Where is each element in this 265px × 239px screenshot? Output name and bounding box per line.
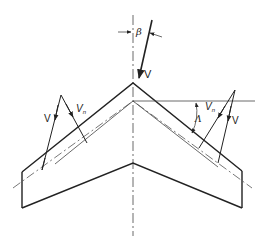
left-velocity-arrowhead xyxy=(55,105,58,120)
left-velocity-drop xyxy=(42,158,45,170)
leading-edge xyxy=(22,83,242,172)
right-normal-line xyxy=(199,90,235,148)
left-normal-line xyxy=(61,95,87,143)
right-normal-velocity-label: Vn xyxy=(205,101,216,113)
left-normal-velocity-label: Vn xyxy=(76,103,87,115)
right-normal-arrowhead xyxy=(218,106,225,118)
beta-arrow-right xyxy=(150,33,162,37)
top-velocity-label: V xyxy=(144,68,152,80)
swept-wing-diagram: β V V Vn V Vn Λ xyxy=(0,0,265,239)
trailing-edge xyxy=(22,163,242,208)
beta-label: β xyxy=(135,26,142,37)
left-normal-arrowhead xyxy=(66,104,73,117)
right-velocity-label: V xyxy=(232,115,239,126)
left-velocity-label: V xyxy=(44,113,51,124)
right-velocity-arrowhead xyxy=(228,106,231,121)
sweep-angle-label: Λ xyxy=(194,114,202,124)
